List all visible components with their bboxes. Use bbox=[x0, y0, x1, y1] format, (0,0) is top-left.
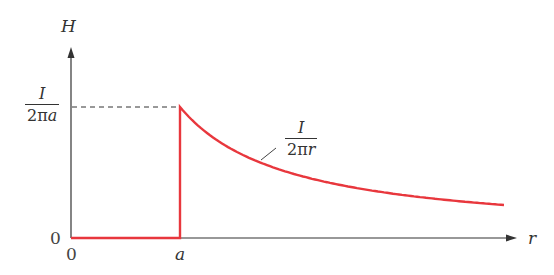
fraction-numerator: I bbox=[35, 84, 49, 104]
y-origin-label: 0 bbox=[50, 228, 61, 248]
x-tick-a: a bbox=[175, 244, 185, 264]
curve-label-leader bbox=[261, 148, 276, 160]
curve-label-fraction: I 2πr bbox=[285, 118, 317, 161]
plot-canvas bbox=[0, 0, 554, 275]
y-axis-label: H bbox=[61, 16, 76, 36]
diagram: H r 0 0 a I 2πa I 2πr bbox=[0, 0, 554, 275]
x-axis-label: r bbox=[528, 228, 536, 248]
fraction-denominator: 2πr bbox=[285, 138, 317, 161]
x-origin-label: 0 bbox=[66, 244, 77, 264]
x-axis-arrow-icon bbox=[506, 235, 517, 242]
y-axis-arrow-icon bbox=[68, 47, 75, 58]
fraction-denominator: 2πa bbox=[25, 104, 59, 127]
fraction-numerator: I bbox=[294, 118, 308, 138]
y-tick-max-fraction: I 2πa bbox=[25, 84, 59, 127]
